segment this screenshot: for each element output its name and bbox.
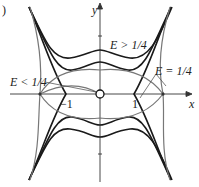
annotation-e-greater: E > 1/4 [110, 38, 147, 53]
y-axis-label: y [92, 3, 97, 18]
panel-label: ) [2, 3, 6, 18]
x-axis-label: x [189, 97, 194, 112]
tick-label-one: 1 [132, 97, 138, 112]
tick-label-neg-one: −1 [60, 97, 73, 112]
annotation-e-equal: E = 1/4 [155, 64, 192, 79]
phase-plot-svg [0, 0, 199, 187]
annotation-e-less: E < 1/4 [10, 75, 47, 90]
center-equilibrium [96, 90, 104, 98]
